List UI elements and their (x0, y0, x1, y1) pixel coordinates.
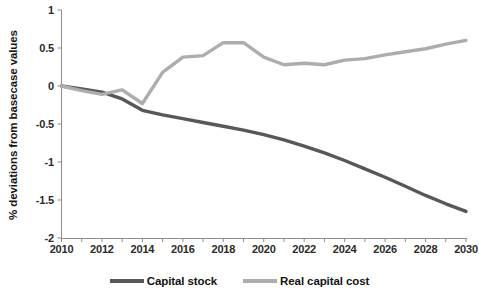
legend-swatch (110, 279, 144, 283)
chart-figure: % deviations from basecase values 10.50-… (0, 0, 479, 293)
x-tick-label: 2028 (414, 243, 438, 255)
x-tick-label: 2012 (90, 243, 114, 255)
x-tick-label: 2022 (292, 243, 316, 255)
axis-lines (58, 10, 468, 242)
chart-legend: Capital stockReal capital cost (0, 270, 479, 292)
legend-swatch (243, 279, 277, 283)
x-axis-tick-labels: 2010201220142016201820202022202420262028… (0, 243, 479, 263)
series-line-capital-stock (62, 86, 467, 211)
x-tick-label: 2018 (211, 243, 235, 255)
x-tick-label: 2020 (252, 243, 276, 255)
series-line-real-capital-cost (62, 40, 467, 103)
x-tick-label: 2024 (333, 243, 357, 255)
x-tick-label: 2016 (171, 243, 195, 255)
x-tick-label: 2010 (50, 243, 74, 255)
x-tick-label: 2030 (454, 243, 478, 255)
legend-label: Capital stock (147, 275, 217, 287)
x-tick-label: 2026 (373, 243, 397, 255)
series-lines (62, 40, 467, 211)
legend-label: Real capital cost (280, 275, 369, 287)
legend-item[interactable]: Capital stock (110, 275, 217, 287)
x-tick-label: 2014 (131, 243, 155, 255)
legend-item[interactable]: Real capital cost (243, 275, 369, 287)
